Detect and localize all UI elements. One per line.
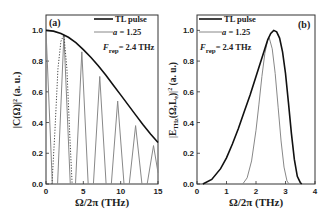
legend-b-label-tl: TL pulse <box>224 14 256 24</box>
plot-series-b <box>203 30 302 184</box>
legend-b: TL pulse a = 1.25 Frep= 2.4 THz <box>199 14 256 55</box>
xlabel-b: Ω/2π (THz) <box>229 196 284 209</box>
y-tick-label: 0.6 <box>183 88 195 97</box>
series-tl-pulse <box>203 30 302 184</box>
plot-series-a <box>46 30 158 184</box>
figure: 0510150.00.20.40.60.81.0 (a) Ω/2π (THz) … <box>0 0 333 216</box>
legend-a-label-a: a = 1.25 <box>113 27 141 37</box>
legend-a-frep: Frep= 2.4 THz <box>102 42 155 55</box>
ylabel-b: |ETHz(Ω,Le)|2 (a. u.) <box>167 62 179 138</box>
legend-a-label-tl: TL pulse <box>115 14 147 24</box>
series-a-1-25 <box>243 38 289 184</box>
x-tick-label: 1 <box>224 187 229 196</box>
legend-b-label-a: a = 1.25 <box>222 27 250 37</box>
xlabel-a: Ω/2π (THz) <box>75 196 130 209</box>
x-tick-label: 0 <box>44 187 49 196</box>
y-tick-label: 0.8 <box>32 57 44 66</box>
legend-b-frep: Frep= 2.4 THz <box>199 42 252 55</box>
y-tick-label: 0.8 <box>183 57 195 66</box>
ylabel-a: |C(Ω)|² (a. u.) <box>11 72 23 129</box>
x-tick-label: 5 <box>81 187 86 196</box>
x-tick-label: 0 <box>195 187 200 196</box>
y-tick-label: 1.0 <box>32 26 44 35</box>
x-tick-label: 15 <box>154 187 163 196</box>
x-tick-label: 4 <box>313 187 318 196</box>
panel-label-b: (b) <box>298 19 310 31</box>
y-tick-label: 0.0 <box>183 180 195 189</box>
y-tick-label: 0.2 <box>32 149 44 158</box>
plot-frame-b <box>197 15 315 184</box>
y-tick-label: 1.0 <box>183 26 195 35</box>
x-tick-label: 2 <box>254 187 259 196</box>
legend-a: TL pulse a = 1.25 Frep= 2.4 THz <box>94 14 155 55</box>
y-tick-label: 0.4 <box>32 119 44 128</box>
panel-label-a: (a) <box>49 17 61 29</box>
y-tick-label: 0.0 <box>32 180 44 189</box>
plot-frame-a <box>46 15 158 184</box>
y-tick-label: 0.4 <box>183 119 195 128</box>
x-tick-label: 10 <box>116 187 125 196</box>
y-tick-label: 0.6 <box>32 88 44 97</box>
panel-a: 0510150.00.20.40.60.81.0 (a) Ω/2π (THz) … <box>11 14 163 209</box>
panel-b: 012340.00.20.40.60.81.0 (b) Ω/2π (THz) |… <box>167 14 318 209</box>
y-tick-label: 0.2 <box>183 149 195 158</box>
series-a-1-25 <box>46 30 158 184</box>
x-tick-label: 3 <box>283 187 288 196</box>
